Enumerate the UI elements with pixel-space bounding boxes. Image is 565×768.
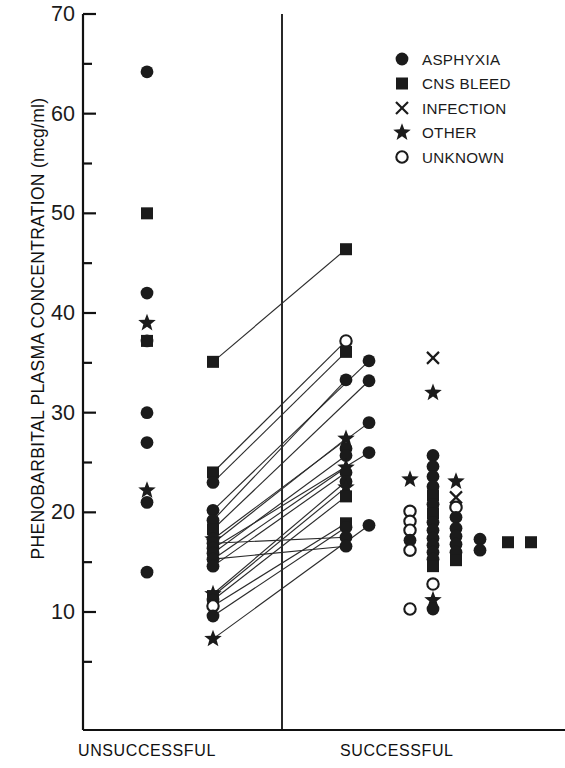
data-point-filled-square	[207, 356, 219, 368]
filled-square-icon	[502, 536, 514, 548]
filled-square-icon	[396, 78, 408, 90]
filled-square-icon	[427, 560, 439, 572]
data-point-filled-circle	[340, 373, 353, 386]
data-point-filled-circle	[141, 406, 154, 419]
filled-square-icon	[340, 243, 352, 255]
open-circle-icon	[427, 578, 438, 589]
data-point-filled-square	[141, 207, 153, 219]
open-circle-icon	[396, 151, 407, 162]
filled-circle-icon	[340, 373, 353, 386]
star-icon	[424, 384, 442, 401]
data-point-filled-circle	[141, 65, 154, 78]
filled-circle-icon	[207, 560, 220, 573]
data-point-filled-circle	[207, 610, 220, 623]
legend-item-other: OTHER	[393, 123, 476, 141]
data-point-star	[138, 314, 156, 331]
pair-connector-line	[213, 467, 346, 559]
data-point-cross	[396, 102, 408, 114]
open-circle-icon	[404, 545, 415, 556]
filled-square-icon	[340, 490, 352, 502]
y-tick-label: 70	[51, 2, 75, 26]
filled-circle-icon	[427, 449, 440, 462]
data-point-filled-square	[340, 346, 352, 358]
filled-square-icon	[340, 346, 352, 358]
filled-square-icon	[141, 207, 153, 219]
data-point-filled-circle	[363, 519, 376, 532]
y-tick-layer: 70605040302010	[51, 2, 96, 662]
data-point-filled-square	[340, 243, 352, 255]
legend-label: ASPHYXIA	[422, 51, 501, 68]
data-point-filled-circle	[141, 496, 154, 509]
y-tick-label: 60	[51, 102, 75, 126]
plot-canvas: 70605040302010 ASPHYXIACNS BLEEDINFECTIO…	[0, 0, 565, 768]
y-tick-label: 20	[51, 500, 75, 524]
data-point-filled-square	[450, 554, 462, 566]
y-tick-label: 40	[51, 301, 75, 325]
data-point-open-circle	[427, 578, 438, 589]
axis-layer	[83, 14, 565, 730]
legend-item-cns-bleed: CNS BLEED	[396, 75, 511, 92]
star-icon	[393, 123, 411, 140]
legend-item-infection: INFECTION	[396, 100, 507, 117]
filled-circle-icon	[141, 287, 154, 300]
data-point-star	[204, 630, 222, 647]
filled-circle-icon	[363, 416, 376, 429]
data-point-filled-circle	[207, 560, 220, 573]
data-point-filled-circle	[363, 354, 376, 367]
data-point-filled-circle	[141, 287, 154, 300]
pair-connector-line	[213, 352, 346, 483]
data-point-star	[447, 472, 465, 489]
star-icon	[447, 472, 465, 489]
filled-circle-icon	[207, 476, 220, 489]
star-icon	[204, 630, 222, 647]
data-point-star	[393, 123, 411, 140]
data-point-filled-circle	[141, 566, 154, 579]
data-point-filled-circle	[207, 476, 220, 489]
filled-circle-icon	[474, 544, 487, 557]
star-icon	[138, 481, 156, 498]
open-circle-icon	[340, 335, 351, 346]
filled-circle-icon	[207, 610, 220, 623]
data-point-open-circle	[404, 603, 415, 614]
data-point-filled-circle	[427, 449, 440, 462]
filled-circle-icon	[450, 511, 463, 524]
data-point-filled-circle	[450, 511, 463, 524]
star-icon	[401, 470, 419, 487]
filled-circle-icon	[363, 354, 376, 367]
data-point-filled-circle	[396, 53, 409, 66]
data-point-filled-circle	[340, 540, 353, 553]
star-icon	[138, 314, 156, 331]
filled-square-icon	[525, 536, 537, 548]
data-point-filled-circle	[474, 544, 487, 557]
data-point-filled-square	[141, 335, 153, 347]
filled-circle-icon	[141, 65, 154, 78]
legend-item-unknown: UNKNOWN	[396, 149, 504, 166]
pair-connector-line	[213, 341, 346, 473]
data-point-filled-square	[396, 78, 408, 90]
data-point-filled-square	[502, 536, 514, 548]
data-point-star	[424, 384, 442, 401]
filled-circle-icon	[141, 496, 154, 509]
figure-scatter-plot: PHENOBARBITAL PLASMA CONCENTRATION (mcg/…	[0, 0, 565, 768]
legend-item-asphyxia: ASPHYXIA	[396, 51, 501, 68]
filled-circle-icon	[396, 53, 409, 66]
pair-connector-line	[213, 249, 346, 362]
data-point-filled-square	[427, 560, 439, 572]
filled-square-icon	[141, 335, 153, 347]
filled-circle-icon	[363, 446, 376, 459]
data-point-filled-circle	[474, 533, 487, 546]
filled-square-icon	[207, 356, 219, 368]
legend: ASPHYXIACNS BLEEDINFECTIONOTHERUNKNOWN	[393, 51, 511, 166]
data-point-filled-circle	[363, 446, 376, 459]
filled-circle-icon	[141, 406, 154, 419]
data-point-filled-circle	[141, 436, 154, 449]
data-point-star	[401, 470, 419, 487]
data-point-filled-circle	[427, 603, 440, 616]
data-point-star	[138, 481, 156, 498]
y-tick-label: 50	[51, 201, 75, 225]
filled-circle-icon	[474, 533, 487, 546]
y-tick-label: 10	[51, 600, 75, 624]
pair-connector-line	[213, 472, 346, 566]
legend-label: OTHER	[422, 124, 477, 141]
filled-circle-icon	[363, 519, 376, 532]
